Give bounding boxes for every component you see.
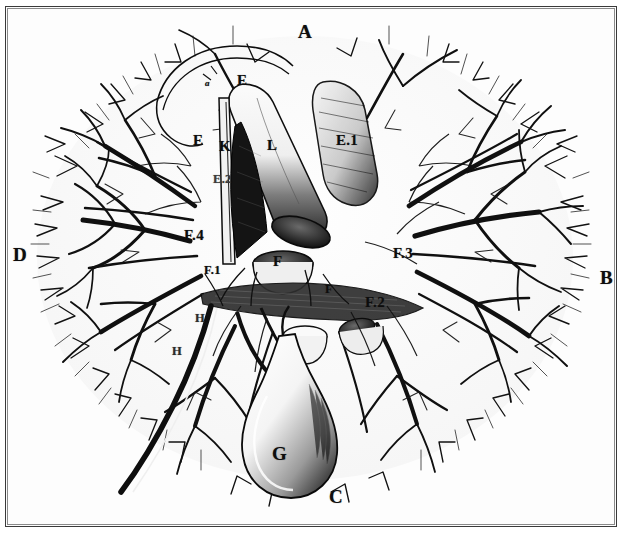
label-e1: E.1 — [336, 133, 358, 148]
label-h-upper: H — [195, 312, 205, 325]
label-d: D — [13, 245, 27, 264]
engraving-plate: A B C D E E E.1 E.2 L K a F F F.1 F.2 F.… — [0, 0, 625, 546]
label-e-top: E — [237, 73, 247, 88]
label-f3: F.3 — [393, 246, 413, 261]
label-f2: F.2 — [365, 295, 385, 310]
label-h-lower: H — [172, 345, 182, 358]
label-f4: F.4 — [184, 228, 204, 243]
label-a-marker: a — [205, 79, 210, 88]
label-e2: E.2 — [213, 173, 232, 186]
label-f-right: F — [325, 283, 333, 296]
label-f: F — [273, 254, 282, 269]
label-a: A — [298, 22, 312, 41]
label-l: L — [267, 138, 277, 153]
anatomical-drawing — [5, 6, 617, 527]
label-c: C — [329, 487, 343, 506]
illustration-canvas — [5, 6, 617, 527]
label-k: K — [219, 139, 231, 154]
label-e-left: E — [193, 133, 203, 148]
label-g: G — [272, 444, 287, 463]
label-b: B — [600, 268, 613, 287]
label-f1: F.1 — [204, 264, 221, 277]
